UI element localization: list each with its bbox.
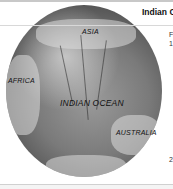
label-africa: AFRICA xyxy=(8,77,35,84)
side-text-line: F xyxy=(169,31,173,38)
top-border xyxy=(0,0,173,2)
panel-title: Indian O xyxy=(142,7,173,17)
label-indian-ocean: INDIAN OCEAN xyxy=(60,98,124,108)
label-asia: ASIA xyxy=(82,28,99,35)
antarctica-landmass xyxy=(46,155,126,177)
label-australia: AUSTRALIA xyxy=(116,129,157,136)
ridge-line xyxy=(60,46,73,105)
side-text-line: 1 xyxy=(169,40,173,47)
side-text-line: 2 xyxy=(169,156,173,163)
header-divider xyxy=(0,25,173,26)
globe-map: ASIA AFRICA INDIAN OCEAN AUSTRALIA xyxy=(6,5,162,185)
bottom-strip xyxy=(0,185,173,189)
africa-landmass xyxy=(6,55,40,135)
